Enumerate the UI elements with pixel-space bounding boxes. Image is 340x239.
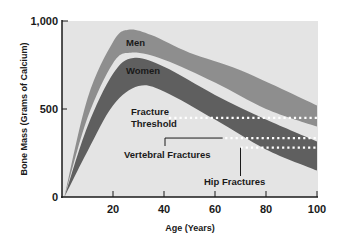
x-tick-label-20: 20 <box>107 203 119 215</box>
men-label: Men <box>126 37 145 48</box>
x-tick-label-60: 60 <box>209 203 221 215</box>
women-label: Women <box>126 65 160 76</box>
fracture-threshold-label-line1: Fracture <box>131 106 169 117</box>
bone-mass-chart: 1,000 500 0 20 40 60 80 100 Age (Years) … <box>0 0 340 239</box>
vertebral-fractures-label: Vertebral Fractures <box>124 149 211 160</box>
x-tick-label-40: 40 <box>158 203 170 215</box>
x-tick-label-100: 100 <box>308 203 326 215</box>
x-axis-title: Age (Years) <box>165 223 215 233</box>
x-tick-label-80: 80 <box>260 203 272 215</box>
y-axis-title: Bone Mass (Grams of Calcium) <box>19 42 29 175</box>
y-tick-label-500: 500 <box>40 103 58 115</box>
y-tick-label-1000: 1,000 <box>30 15 58 27</box>
y-tick-label-0: 0 <box>52 191 58 203</box>
fracture-threshold-label-line2: Threshold <box>131 118 177 129</box>
hip-fractures-label: Hip Fractures <box>204 176 265 187</box>
